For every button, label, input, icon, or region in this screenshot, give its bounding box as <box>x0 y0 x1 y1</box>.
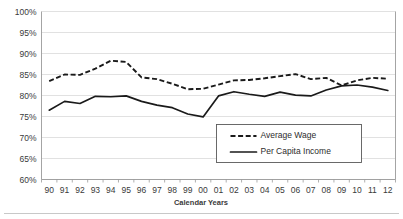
x-tick-label: 03 <box>245 185 255 195</box>
x-tick-label: 12 <box>383 185 393 195</box>
y-tick-label: 65% <box>19 154 36 164</box>
x-tick-label: 09 <box>337 185 347 195</box>
x-tick-label: 08 <box>322 185 332 195</box>
x-tick-label: 01 <box>214 185 224 195</box>
x-tick-label: 04 <box>260 185 270 195</box>
x-axis-tick-labels: 9091929394959697989900010203040506070809… <box>44 185 392 195</box>
x-tick-label: 10 <box>352 185 362 195</box>
x-tick-label: 96 <box>137 185 147 195</box>
x-tick-label: 92 <box>75 185 85 195</box>
x-tick-label: 99 <box>183 185 193 195</box>
x-tick-label: 93 <box>91 185 101 195</box>
x-tick-label: 02 <box>229 185 239 195</box>
y-tick-label: 75% <box>19 112 36 122</box>
y-tick-label: 70% <box>19 133 36 143</box>
x-axis-title: Calendar Years <box>174 198 228 207</box>
x-tick-label: 95 <box>121 185 131 195</box>
x-tick-label: 97 <box>152 185 162 195</box>
x-tick-label: 05 <box>275 185 285 195</box>
legend-label[interactable]: Average Wage <box>261 130 317 140</box>
chart-legend[interactable]: Average WagePer Capita Income <box>217 125 362 163</box>
x-tick-label: 06 <box>291 185 301 195</box>
y-tick-label: 90% <box>19 49 36 59</box>
x-tick-label: 11 <box>368 185 377 195</box>
y-tick-label: 100% <box>15 7 37 17</box>
line-chart: 100%95%90%85%80%75%70%65%60% 90919293949… <box>0 0 403 219</box>
legend-label[interactable]: Per Capita Income <box>261 146 332 156</box>
x-tick-label: 94 <box>106 185 116 195</box>
x-tick-label: 91 <box>60 185 70 195</box>
x-tick-label: 00 <box>198 185 208 195</box>
y-tick-label: 95% <box>19 28 36 38</box>
x-tick-label: 07 <box>306 185 316 195</box>
y-tick-label: 80% <box>19 91 36 101</box>
y-tick-label: 85% <box>19 70 36 80</box>
y-tick-label: 60% <box>19 175 36 185</box>
x-tick-label: 90 <box>44 185 54 195</box>
chart-container: 100%95%90%85%80%75%70%65%60% 90919293949… <box>0 0 403 219</box>
x-tick-label: 98 <box>168 185 178 195</box>
